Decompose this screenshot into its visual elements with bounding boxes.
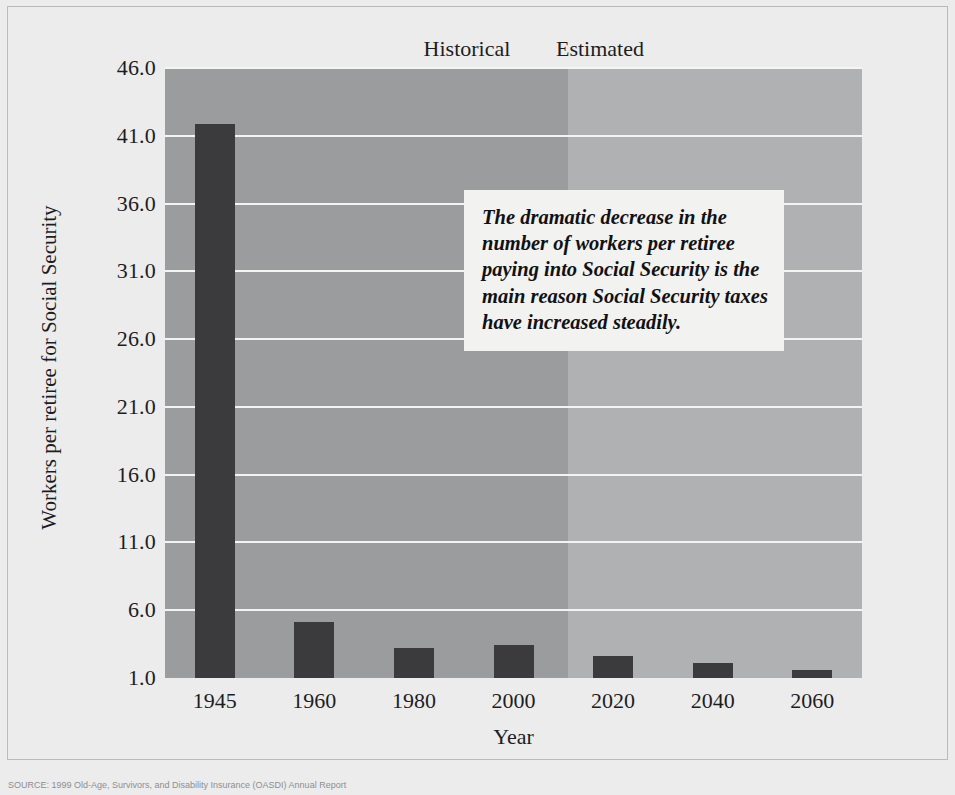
band-estimated <box>568 68 862 678</box>
bar-1945 <box>195 124 235 678</box>
y-axis-tick-label: 26.0 <box>66 326 156 352</box>
bar-1980 <box>394 648 434 678</box>
gridline <box>165 541 862 543</box>
y-axis-tick-label: 11.0 <box>66 529 156 555</box>
chart-figure: Historical Estimated 46.041.036.031.026.… <box>0 0 955 795</box>
y-axis-tick-label: 16.0 <box>66 462 156 488</box>
gridline <box>165 474 862 476</box>
gridline <box>165 609 862 611</box>
bar-2000 <box>494 645 534 678</box>
bar-1960 <box>294 622 334 678</box>
y-axis-tick-label: 31.0 <box>66 258 156 284</box>
y-axis-tick-label: 36.0 <box>66 191 156 217</box>
x-axis-tick-label: 2060 <box>752 688 872 714</box>
period-label-estimated: Estimated <box>500 36 700 62</box>
y-axis-tick-label: 41.0 <box>66 123 156 149</box>
y-axis-tick-label: 6.0 <box>66 597 156 623</box>
y-axis-tick-label: 46.0 <box>66 55 156 81</box>
x-axis-title: Year <box>165 724 862 750</box>
bar-2060 <box>792 670 832 678</box>
gridline <box>165 67 862 69</box>
y-axis-tick-label: 1.0 <box>66 665 156 691</box>
gridline <box>165 135 862 137</box>
x-axis-tick-labels: 1945196019802000202020402060 <box>165 688 862 718</box>
y-axis-title: Workers per retiree for Social Security <box>37 153 62 583</box>
y-axis-tick-labels: 46.041.036.031.026.021.016.011.06.01.0 <box>60 68 156 678</box>
gridline <box>165 406 862 408</box>
callout-annotation: The dramatic decrease in the number of w… <box>464 190 784 351</box>
y-axis-tick-label: 21.0 <box>66 394 156 420</box>
source-caption: SOURCE: 1999 Old-Age, Survivors, and Dis… <box>8 780 346 790</box>
plot-area <box>165 68 862 678</box>
bar-2020 <box>593 656 633 678</box>
bar-2040 <box>693 663 733 678</box>
